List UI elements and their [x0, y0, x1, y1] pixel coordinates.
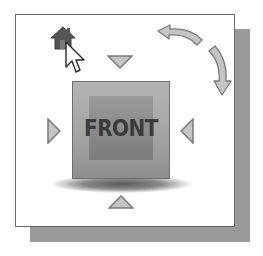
rotate-counterclockwise-icon — [156, 20, 204, 50]
rotate-cw-button[interactable] — [206, 45, 236, 97]
viewcube-panel: FRONT — [15, 14, 235, 227]
triangle-right-icon — [47, 118, 61, 144]
triangle-down-icon — [107, 55, 133, 69]
rotate-ccw-button[interactable] — [156, 20, 204, 50]
mouse-pointer-icon — [65, 41, 87, 77]
viewcube-front-face[interactable]: FRONT — [72, 81, 170, 179]
view-arrow-right[interactable] — [180, 118, 194, 144]
triangle-up-icon — [108, 195, 134, 209]
rotate-clockwise-icon — [206, 45, 236, 97]
mouse-cursor — [65, 41, 87, 77]
cube-face-label: FRONT — [73, 114, 169, 142]
view-arrow-top[interactable] — [107, 55, 133, 69]
view-arrow-bottom[interactable] — [108, 195, 134, 209]
triangle-left-icon — [180, 118, 194, 144]
view-arrow-left[interactable] — [47, 118, 61, 144]
